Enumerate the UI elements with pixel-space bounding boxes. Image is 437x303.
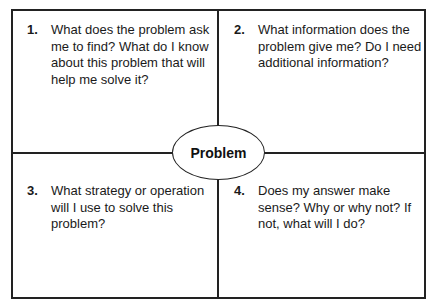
quadrant-1: 1. What does the problem ask me to find?… — [27, 22, 212, 88]
quadrant-number: 1. — [27, 22, 51, 88]
quadrant-text: What does the problem ask me to find? Wh… — [51, 22, 212, 88]
center-label: Problem — [190, 145, 246, 161]
quadrant-number: 3. — [27, 183, 51, 233]
quadrant-text: What information does the problem give m… — [258, 22, 422, 72]
center-oval: Problem — [172, 125, 265, 180]
quadrant-2: 2. What information does the problem giv… — [234, 22, 422, 72]
quadrant-4: 4. Does my answer make sense? Why or why… — [234, 183, 422, 233]
quadrant-text: What strategy or operation will I use to… — [51, 183, 212, 233]
quadrant-3: 3. What strategy or operation will I use… — [27, 183, 212, 233]
quadrant-text: Does my answer make sense? Why or why no… — [258, 183, 422, 233]
quadrant-number: 2. — [234, 22, 258, 72]
quadrant-number: 4. — [234, 183, 258, 233]
